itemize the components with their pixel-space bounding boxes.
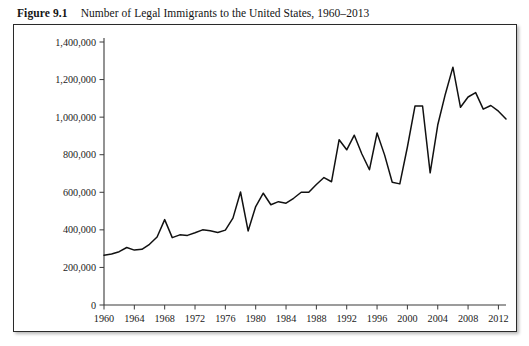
figure-frame: 0200,000400,000600,000800,0001,000,0001,… xyxy=(13,24,517,332)
figure-caption: Figure 9.1 Number of Legal Immigrants to… xyxy=(0,0,529,25)
x-tick-label: 2008 xyxy=(458,313,478,324)
x-tick-label: 1984 xyxy=(276,313,296,324)
y-tick-label: 200,000 xyxy=(63,262,96,273)
x-tick-label: 1992 xyxy=(337,313,357,324)
y-tick-label: 1,200,000 xyxy=(55,74,96,85)
x-tick-label: 1960 xyxy=(94,313,114,324)
figure-title: Number of Legal Immigrants to the United… xyxy=(81,7,370,19)
y-tick-label: 1,400,000 xyxy=(55,37,96,48)
chart-plot-area: 0200,000400,000600,000800,0001,000,0001,… xyxy=(14,25,517,332)
x-tick-label: 1972 xyxy=(185,313,205,324)
x-tick-label: 1980 xyxy=(246,313,266,324)
y-tick-label: 0 xyxy=(91,300,96,311)
line-chart: 0200,000400,000600,000800,0001,000,0001,… xyxy=(14,25,517,332)
y-tick-label: 800,000 xyxy=(63,149,96,160)
figure-number: Figure 9.1 xyxy=(17,7,68,19)
data-series-line xyxy=(104,67,506,255)
x-tick-label: 1968 xyxy=(154,313,174,324)
x-tick-label: 2000 xyxy=(397,313,417,324)
x-tick-label: 1964 xyxy=(124,313,144,324)
y-tick-label: 400,000 xyxy=(63,224,96,235)
x-tick-label: 2004 xyxy=(428,313,448,324)
x-tick-label: 2012 xyxy=(488,313,508,324)
x-tick-label: 1988 xyxy=(306,313,326,324)
x-tick-label: 1976 xyxy=(215,313,235,324)
y-tick-label: 1,000,000 xyxy=(55,112,96,123)
x-tick-label: 1996 xyxy=(367,313,387,324)
y-tick-label: 600,000 xyxy=(63,187,96,198)
